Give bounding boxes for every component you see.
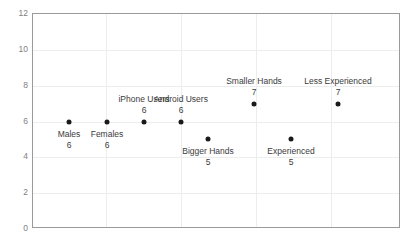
data-point-name: Experienced bbox=[267, 146, 314, 157]
data-point[interactable] bbox=[289, 137, 294, 142]
data-point-name: Less Experienced bbox=[304, 76, 372, 87]
data-point-label: Females6 bbox=[91, 129, 124, 151]
data-point-value: 6 bbox=[91, 140, 124, 151]
data-point[interactable] bbox=[142, 119, 147, 124]
data-point[interactable] bbox=[252, 101, 257, 106]
data-point-label: Bigger Hands5 bbox=[182, 146, 234, 168]
data-point[interactable] bbox=[67, 119, 72, 124]
gridline-vertical bbox=[331, 14, 332, 227]
gridline-horizontal bbox=[33, 122, 399, 123]
data-point-value: 5 bbox=[182, 157, 234, 168]
data-point-label: Males6 bbox=[58, 129, 81, 151]
data-point-label: Less Experienced7 bbox=[304, 76, 372, 98]
data-point-value: 7 bbox=[226, 87, 282, 98]
gridline-horizontal bbox=[33, 50, 399, 51]
data-point[interactable] bbox=[336, 101, 341, 106]
data-point-name: Android Users bbox=[154, 94, 208, 105]
plot-inner: Males6Females6iPhone Users6Android Users… bbox=[33, 14, 399, 227]
data-point-value: 6 bbox=[154, 105, 208, 116]
y-axis-tick-label: 10 bbox=[2, 45, 28, 54]
y-axis-tick-label: 0 bbox=[2, 224, 28, 233]
data-point-label: Experienced5 bbox=[267, 146, 314, 168]
data-point[interactable] bbox=[105, 119, 110, 124]
data-point[interactable] bbox=[179, 119, 184, 124]
data-point-label: Smaller Hands7 bbox=[226, 76, 282, 98]
y-axis-tick-label: 4 bbox=[2, 152, 28, 161]
data-point-name: Males bbox=[58, 129, 81, 140]
gridline-horizontal bbox=[33, 193, 399, 194]
data-point-label: Android Users6 bbox=[154, 94, 208, 116]
y-axis-tick-label: 6 bbox=[2, 116, 28, 125]
data-point-value: 7 bbox=[304, 87, 372, 98]
y-axis: 121086420 bbox=[0, 0, 28, 247]
data-point-name: Smaller Hands bbox=[226, 76, 282, 87]
plot-area: Males6Females6iPhone Users6Android Users… bbox=[32, 13, 400, 228]
scatter-chart: 121086420 Males6Females6iPhone Users6And… bbox=[0, 0, 416, 247]
data-point-name: Bigger Hands bbox=[182, 146, 234, 157]
data-point[interactable] bbox=[206, 137, 211, 142]
data-point-value: 5 bbox=[267, 157, 314, 168]
data-point-value: 6 bbox=[58, 140, 81, 151]
gridline-vertical bbox=[256, 14, 257, 227]
data-point-name: Females bbox=[91, 129, 124, 140]
y-axis-tick-label: 12 bbox=[2, 9, 28, 18]
y-axis-tick-label: 8 bbox=[2, 80, 28, 89]
y-axis-tick-label: 2 bbox=[2, 188, 28, 197]
